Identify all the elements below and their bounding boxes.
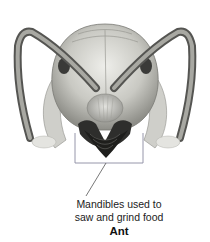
figure-title: Ant — [14, 225, 210, 237]
callout-text-line-1: Mandibles used to — [14, 198, 210, 211]
callout-text-line-2: saw and grind food — [14, 211, 210, 224]
leader-line — [86, 163, 106, 196]
clypeus — [87, 94, 123, 122]
